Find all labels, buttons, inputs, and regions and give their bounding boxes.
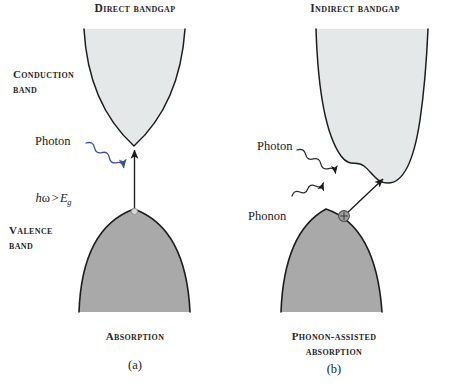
panel-b-photon-label: Photon (257, 139, 292, 154)
panel-b-transition-arrow (345, 179, 383, 215)
panel-b-valence-band (281, 209, 382, 312)
panel-b-photon-wave (295, 147, 337, 174)
panel-b-phonon-label: Phonon (248, 209, 286, 224)
figure-canvas: Direct bandgap Conduction band Valence b… (0, 0, 475, 391)
panel-b-caption-line1: Phonon-assisted (292, 330, 377, 343)
panel-a-id: (a) (128, 358, 142, 373)
panel-a-valence-band (79, 209, 190, 312)
panel-a-conduction-band-label-line2: band (13, 83, 37, 96)
panel-a-energy-condition: hω>Eg (23, 176, 72, 220)
panel-b-heading: Indirect bandgap (310, 2, 399, 16)
panel-b-caption-line2: absorption (306, 345, 362, 358)
panel-b-conduction-band (316, 29, 428, 183)
panel-a-caption: Absorption (106, 330, 165, 343)
panel-b-hole-marker (339, 211, 350, 222)
panel-a-conduction-band (84, 29, 185, 146)
panel-b-id: (b) (327, 362, 342, 377)
inequality-operator: > (50, 191, 60, 205)
panel-b-phonon-wave (291, 180, 324, 199)
omega-symbol: ω (42, 191, 50, 205)
energy-subscript: g (67, 197, 71, 207)
panel-a-photon-label: Photon (35, 134, 70, 149)
panel-a-conduction-band-label-line1: Conduction (13, 68, 74, 81)
panel-a-hole-marker (131, 208, 137, 214)
panel-a-valence-band-label-line2: band (9, 239, 33, 252)
panel-a-valence-band-label-line1: Valence (9, 224, 53, 237)
panel-a-photon-wave (84, 141, 126, 169)
panel-a-heading: Direct bandgap (95, 2, 176, 16)
